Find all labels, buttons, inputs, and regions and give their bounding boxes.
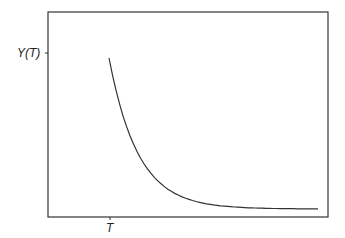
plot-frame bbox=[48, 12, 328, 217]
decay-curve bbox=[109, 58, 318, 209]
y-tick-label: Y(T) bbox=[17, 46, 40, 60]
chart-area bbox=[0, 0, 345, 238]
x-tick-label: T bbox=[106, 221, 113, 235]
